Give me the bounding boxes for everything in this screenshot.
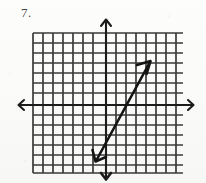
line-segment [96, 62, 150, 161]
linear-function-graph [93, 61, 151, 162]
grid-lines [33, 33, 183, 173]
coordinate-graph [0, 0, 206, 183]
worksheet-problem-page: 7. [0, 0, 206, 183]
grid-vertical-lines [33, 33, 176, 173]
grid-horizontal-lines [33, 33, 183, 173]
